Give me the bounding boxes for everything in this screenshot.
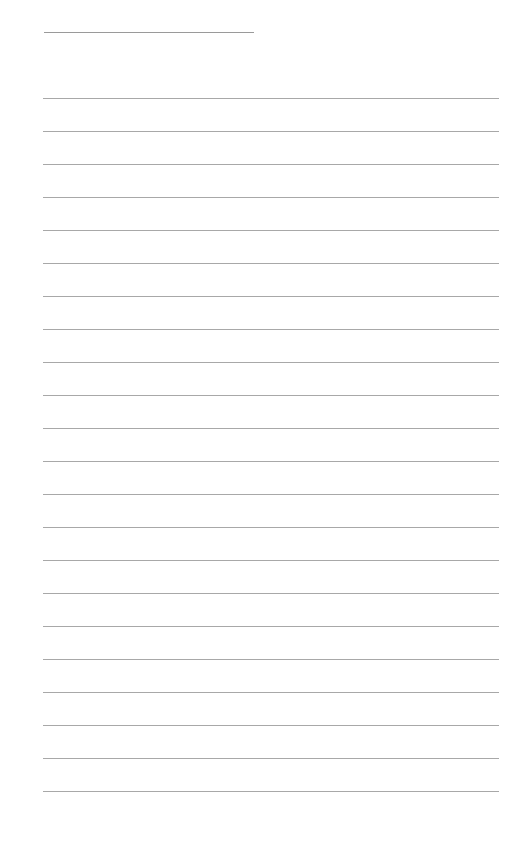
ruled-line bbox=[43, 659, 499, 660]
ruled-line bbox=[43, 527, 499, 528]
ruled-line bbox=[43, 791, 499, 792]
header-title-line bbox=[44, 32, 254, 33]
ruled-line bbox=[43, 296, 499, 297]
ruled-line bbox=[43, 692, 499, 693]
ruled-line bbox=[43, 164, 499, 165]
ruled-line bbox=[43, 494, 499, 495]
ruled-line bbox=[43, 461, 499, 462]
ruled-line bbox=[43, 428, 499, 429]
ruled-line bbox=[43, 395, 499, 396]
ruled-line bbox=[43, 362, 499, 363]
ruled-line bbox=[43, 758, 499, 759]
ruled-line bbox=[43, 725, 499, 726]
ruled-line bbox=[43, 131, 499, 132]
ruled-line bbox=[43, 197, 499, 198]
ruled-line bbox=[43, 626, 499, 627]
ruled-line bbox=[43, 560, 499, 561]
ruled-line bbox=[43, 329, 499, 330]
ruled-line bbox=[43, 263, 499, 264]
ruled-line bbox=[43, 593, 499, 594]
ruled-line bbox=[43, 230, 499, 231]
ruled-line bbox=[43, 98, 499, 99]
